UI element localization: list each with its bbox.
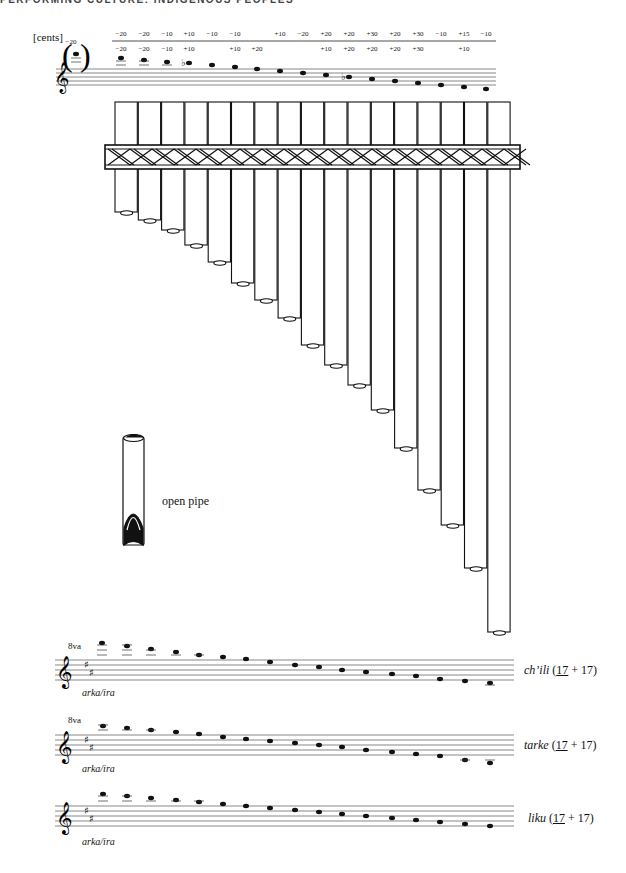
treble-clef-icon: 𝄞	[56, 655, 73, 689]
open-pipe-caption: open pipe	[162, 494, 209, 509]
svg-text:): )	[80, 37, 91, 73]
svg-text:(: (	[62, 37, 73, 73]
tuning-label-liku: liku (17 + 17)	[528, 811, 594, 826]
svg-text:♭: ♭	[341, 71, 346, 82]
tuning-label-chili: ch’ili (17 + 17)	[524, 663, 597, 678]
arka-count: 17	[581, 663, 593, 677]
arkaira-label-2: arka/ira	[82, 763, 115, 774]
arka-count: 17	[580, 738, 592, 752]
ira-count: 17	[556, 663, 568, 677]
tuning-label-tarke: tarke (17 + 17)	[524, 738, 596, 753]
treble-clef-icon: 𝄞	[56, 801, 73, 835]
panpipe-binding-bar	[105, 145, 530, 169]
ottava-mark-2: 8va	[68, 715, 81, 725]
open-pipe-illustration	[123, 435, 144, 546]
arkaira-label-1: arka/ira	[82, 687, 115, 698]
svg-text:♯: ♯	[89, 667, 94, 678]
svg-text:♯: ♯	[89, 813, 94, 824]
arkaira-label-3: arka/ira	[82, 836, 115, 847]
panpipe-pipes	[115, 102, 510, 635]
ira-count: 17	[553, 811, 565, 825]
tuning-name: tarke	[524, 738, 549, 752]
svg-text:♭: ♭	[181, 57, 186, 68]
top-staff-notes: ♭ ♭	[116, 56, 489, 91]
arka-count: 17	[578, 811, 590, 825]
ottava-mark-1: 8va	[68, 641, 81, 651]
ira-count: 17	[556, 738, 568, 752]
tuning-name: liku	[528, 811, 546, 825]
tuning-name: ch’ili	[524, 663, 549, 677]
svg-text:♯: ♯	[89, 742, 94, 753]
treble-clef-icon: 𝄞	[56, 730, 73, 764]
top-staff	[56, 69, 496, 85]
